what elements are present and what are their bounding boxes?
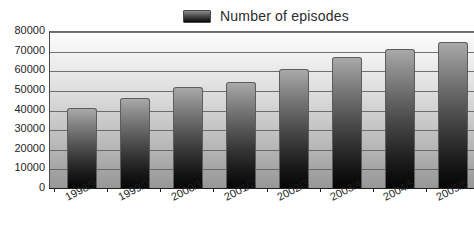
legend-color-swatch-icon [183, 10, 211, 23]
bar [120, 98, 150, 188]
bar [438, 42, 468, 188]
y-axis-tick-label: 0 [0, 181, 45, 193]
y-axis-tick-label: 30000 [0, 122, 45, 134]
x-axis-tick-mark [107, 188, 108, 192]
x-axis-tick-mark [320, 188, 321, 192]
y-axis-tick-label: 60000 [0, 63, 45, 75]
y-axis-tick-label: 80000 [0, 24, 45, 36]
x-axis-tick-mark [54, 188, 55, 192]
bar [226, 82, 256, 188]
legend-series-label: Number of episodes [220, 8, 349, 24]
bar-series [50, 32, 474, 188]
x-axis-tick-mark [373, 188, 374, 192]
x-axis-tick-mark [426, 188, 427, 192]
bar [385, 49, 415, 188]
y-axis-tick-label: 10000 [0, 161, 45, 173]
y-axis-tick-label: 50000 [0, 83, 45, 95]
plot-area [49, 31, 474, 188]
x-axis-tick-mark [267, 188, 268, 192]
chart-legend: Number of episodes [183, 6, 349, 26]
bar [332, 57, 362, 188]
x-axis-tick-mark [160, 188, 161, 192]
bar [279, 69, 309, 188]
bar [173, 87, 203, 188]
x-axis-tick-mark [213, 188, 214, 192]
y-axis-tick-label: 20000 [0, 142, 45, 154]
y-axis-tick-label: 70000 [0, 44, 45, 56]
y-axis-tick-label: 40000 [0, 103, 45, 115]
bar-chart: Number of episodes 010000200003000040000… [0, 0, 474, 227]
